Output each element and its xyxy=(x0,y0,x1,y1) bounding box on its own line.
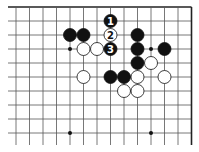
black-stone: 3 xyxy=(104,43,117,56)
white-stone-disc xyxy=(77,43,90,56)
black-stone-disc xyxy=(131,43,144,56)
black-stone xyxy=(158,43,171,56)
white-stone-disc xyxy=(91,43,104,56)
black-stone xyxy=(77,29,90,42)
black-stone xyxy=(131,29,144,42)
white-stone xyxy=(77,71,90,84)
white-stone xyxy=(145,57,158,70)
black-stone-disc xyxy=(77,29,90,42)
white-stone-disc xyxy=(131,71,144,84)
move-number-label: 2 xyxy=(107,30,114,41)
star-point xyxy=(68,47,72,51)
black-stone-disc xyxy=(131,29,144,42)
white-stone-disc xyxy=(131,85,144,98)
go-board: 123 xyxy=(0,0,199,152)
black-stone xyxy=(118,71,131,84)
star-point xyxy=(149,131,153,135)
black-stone-disc xyxy=(64,29,77,42)
white-stone-disc xyxy=(118,85,131,98)
black-stone: 1 xyxy=(104,15,117,28)
white-stone xyxy=(118,85,131,98)
black-stone-disc xyxy=(118,71,131,84)
star-point xyxy=(149,47,153,51)
move-number-label: 3 xyxy=(107,44,114,55)
black-stone xyxy=(131,57,144,70)
white-stone-disc xyxy=(77,71,90,84)
white-stone-disc xyxy=(158,71,171,84)
black-stone xyxy=(64,29,77,42)
black-stone-disc xyxy=(158,43,171,56)
black-stone xyxy=(104,71,117,84)
move-number-label: 1 xyxy=(107,16,114,27)
star-point xyxy=(68,131,72,135)
white-stone-disc xyxy=(145,57,158,70)
white-stone xyxy=(91,43,104,56)
white-stone: 2 xyxy=(104,29,117,42)
black-stone xyxy=(131,43,144,56)
black-stone-disc xyxy=(104,71,117,84)
white-stone xyxy=(131,85,144,98)
stones: 123 xyxy=(64,15,172,98)
white-stone xyxy=(131,71,144,84)
white-stone xyxy=(158,71,171,84)
white-stone xyxy=(77,43,90,56)
black-stone-disc xyxy=(131,57,144,70)
